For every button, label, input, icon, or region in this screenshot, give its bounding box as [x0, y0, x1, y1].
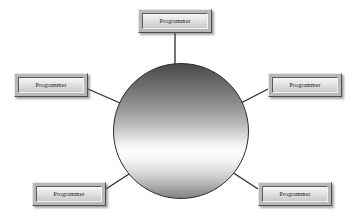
node-programmer-bottom-left[interactable]: Programmer: [32, 182, 106, 206]
connector-link-left: [88, 89, 120, 103]
node-programmer-top[interactable]: Programmer: [138, 9, 212, 33]
node-label: Programmer: [54, 191, 85, 197]
node-inner: Programmer: [272, 77, 338, 93]
connector-link-right: [241, 89, 268, 103]
node-inner: Programmer: [142, 13, 208, 29]
node-inner: Programmer: [262, 186, 328, 202]
node-programmer-right[interactable]: Programmer: [268, 73, 342, 97]
node-programmer-left[interactable]: Programmer: [14, 73, 88, 97]
node-label: Programmer: [36, 82, 67, 88]
node-inner: Programmer: [36, 186, 102, 202]
node-label: Programmer: [290, 82, 321, 88]
node-inner: Programmer: [18, 77, 84, 93]
node-label: Programmer: [280, 191, 311, 197]
connector-link-bottom-right: [232, 172, 258, 189]
node-programmer-bottom-right[interactable]: Programmer: [258, 182, 332, 206]
diagram-canvas: Programmer Programmer Programmer Program…: [0, 0, 358, 223]
node-label: Programmer: [160, 18, 191, 24]
central-hub[interactable]: [113, 63, 249, 199]
